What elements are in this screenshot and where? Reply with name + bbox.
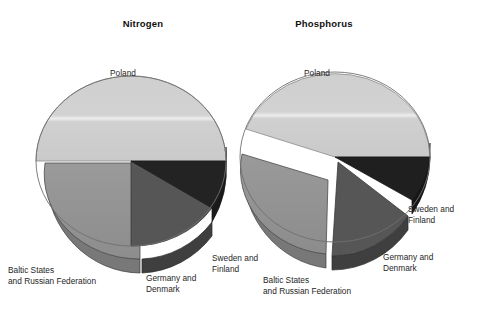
- label-baltic-phosphorus: Baltic States and Russian Federation: [263, 275, 351, 298]
- label-sweden-left-phosphorus: Sweden and Finland: [212, 253, 258, 276]
- chart-title-phosphorus: Phosphorus: [276, 18, 372, 29]
- label-germany-nitrogen: Germany and Denmark: [146, 273, 196, 296]
- pie-chart-nitrogen: [36, 76, 226, 266]
- chart-title-nitrogen: Nitrogen: [95, 18, 191, 29]
- slice-baltic-nitrogen: [44, 163, 140, 259]
- label-poland-nitrogen: Poland: [78, 68, 168, 79]
- label-sweden-right-phosphorus: Sweden and Finland: [408, 204, 454, 227]
- figure-canvas: Nitrogen: [0, 0, 477, 317]
- label-germany-phosphorus: Germany and Denmark: [383, 252, 433, 275]
- slice-baltic-phosphorus: [240, 154, 328, 254]
- slice-poland-phosphorus: [246, 74, 430, 157]
- slice-poland-nitrogen: [36, 76, 226, 161]
- label-baltic-nitrogen: Baltic States and Russian Federation: [8, 265, 96, 288]
- pie-chart-phosphorus: [240, 72, 430, 262]
- label-poland-phosphorus: Poland: [272, 68, 362, 79]
